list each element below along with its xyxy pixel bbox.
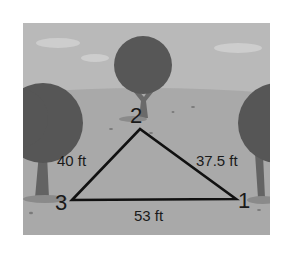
- vertex-label-3: 3: [55, 192, 67, 214]
- cloud-icon: [214, 43, 262, 53]
- cloud-icon: [81, 54, 109, 62]
- cloud-icon: [36, 38, 80, 48]
- vertex-label-2: 2: [130, 105, 142, 127]
- vertex-label-1: 1: [238, 190, 250, 212]
- side-label-3-1: 53 ft: [134, 208, 163, 223]
- side-label-3-2: 40 ft: [57, 153, 86, 168]
- side-label-2-1: 37.5 ft: [196, 153, 238, 168]
